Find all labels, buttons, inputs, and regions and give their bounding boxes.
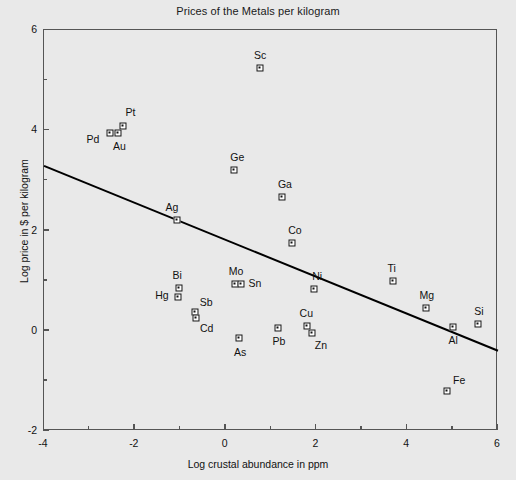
x-tick-label: 2 [312, 437, 318, 449]
point-label-ti: Ti [387, 262, 395, 274]
data-point-sc [257, 65, 264, 72]
point-label-au: Au [113, 140, 126, 152]
data-point-ga [278, 193, 285, 200]
trend-line [44, 166, 498, 351]
x-tick-label: 6 [494, 437, 500, 449]
data-point-cu [304, 323, 311, 330]
point-label-cu: Cu [300, 307, 313, 319]
x-tick-label: 0 [222, 437, 228, 449]
point-label-fe: Fe [453, 374, 465, 386]
data-point-fe [444, 387, 451, 394]
data-point-ge [231, 166, 238, 173]
point-label-cd: Cd [200, 322, 213, 334]
point-label-bi: Bi [173, 269, 182, 281]
plot-area: ScPtPdAuGeGaAgCoTiNiMoSnBiHgMgSiCuZnSbCd… [43, 29, 497, 430]
point-label-as: As [234, 346, 246, 358]
plot-svg [44, 30, 498, 431]
x-axis-label: Log crustal abundance in ppm [0, 458, 516, 470]
point-label-sb: Sb [200, 296, 213, 308]
data-point-pd [106, 130, 113, 137]
chart-figure: Prices of the Metals per kilogram ScPtPd… [0, 0, 516, 480]
data-point-bi [176, 284, 183, 291]
point-label-si: Si [474, 305, 483, 317]
data-point-sn [238, 280, 245, 287]
y-tick-label: -2 [9, 424, 37, 436]
point-label-ni: Ni [312, 270, 322, 282]
point-label-co: Co [288, 224, 301, 236]
point-label-ge: Ge [230, 151, 244, 163]
x-tick-label: -4 [38, 437, 47, 449]
data-point-ag [174, 216, 181, 223]
y-axis-label: Log price in $ per kilogram [18, 101, 30, 341]
data-point-au [115, 130, 122, 137]
point-label-al: Al [448, 334, 457, 346]
x-tick-label: -2 [129, 437, 138, 449]
chart-title: Prices of the Metals per kilogram [0, 5, 516, 17]
data-point-pb [274, 324, 281, 331]
data-point-ti [389, 277, 396, 284]
data-point-si [475, 320, 482, 327]
data-point-zn [308, 330, 315, 337]
data-point-as [236, 334, 243, 341]
point-label-pb: Pb [272, 335, 285, 347]
data-point-co [288, 240, 295, 247]
point-label-mo: Mo [229, 265, 244, 277]
point-label-sc: Sc [254, 49, 266, 61]
data-point-hg [174, 294, 181, 301]
data-point-mg [422, 304, 429, 311]
point-label-pd: Pd [86, 133, 99, 145]
point-label-ag: Ag [166, 201, 179, 213]
x-tick-label: 4 [403, 437, 409, 449]
point-label-sn: Sn [249, 277, 262, 289]
point-label-pt: Pt [125, 106, 135, 118]
point-label-ga: Ga [278, 178, 292, 190]
y-tick-label: 6 [9, 23, 37, 35]
point-label-mg: Mg [420, 289, 435, 301]
point-label-zn: Zn [315, 339, 327, 351]
data-point-al [450, 323, 457, 330]
data-point-cd [192, 315, 199, 322]
data-point-ni [311, 285, 318, 292]
data-point-pt [120, 123, 127, 130]
point-label-hg: Hg [155, 289, 168, 301]
